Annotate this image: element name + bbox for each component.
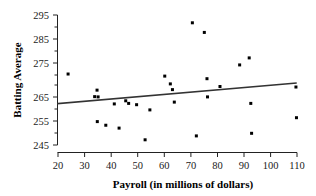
data-point (93, 95, 96, 98)
x-tick-label-110: 110 (289, 160, 304, 171)
y-tick-label-245: 245 (33, 140, 49, 151)
data-point (169, 82, 172, 85)
data-point (148, 108, 151, 111)
data-point (113, 102, 116, 105)
x-tick-label-100: 100 (263, 160, 279, 171)
x-tick-label-20: 20 (53, 160, 64, 171)
data-point (294, 86, 297, 89)
x-tick-label-80: 80 (212, 160, 223, 171)
data-point (250, 132, 253, 135)
x-tick-label-60: 60 (159, 160, 170, 171)
x-tick-label-70: 70 (186, 160, 197, 171)
data-point (173, 101, 176, 104)
data-point (206, 95, 209, 98)
x-tick-label-90: 90 (239, 160, 250, 171)
y-axis-title: Batting Average (11, 42, 23, 117)
scatter-plot-figure: 295 285 275 265 255 245 20 30 40 50 60 7… (0, 0, 316, 196)
data-point (96, 89, 99, 92)
x-tick-label-30: 30 (79, 160, 90, 171)
data-point (295, 116, 298, 119)
data-point (218, 85, 221, 88)
x-axis-title: Payroll (in millions of dollars) (113, 178, 254, 191)
data-point (205, 77, 208, 80)
y-tick-label-285: 285 (33, 34, 49, 45)
data-points-group (67, 21, 298, 141)
data-point (195, 134, 198, 137)
data-point (191, 21, 194, 24)
y-tick-label-275: 275 (33, 58, 49, 69)
data-point (163, 75, 166, 78)
x-tick-label-40: 40 (106, 160, 117, 171)
data-point (124, 99, 127, 102)
data-point (238, 63, 241, 66)
data-point (171, 88, 174, 91)
data-point (118, 127, 121, 130)
y-tick-label-295: 295 (33, 10, 49, 21)
y-tick-label-265: 265 (33, 92, 49, 103)
data-point (203, 31, 206, 34)
data-point (67, 73, 70, 76)
trend-line (58, 83, 296, 104)
data-point (144, 138, 147, 141)
plot-canvas: 295 285 275 265 255 245 20 30 40 50 60 7… (0, 0, 316, 196)
data-point (97, 95, 100, 98)
data-point (249, 102, 252, 105)
data-point (127, 102, 130, 105)
data-point (248, 56, 251, 59)
data-point (96, 120, 99, 123)
y-tick-label-255: 255 (33, 116, 49, 127)
data-point (104, 124, 107, 127)
y-axis-ticks (53, 15, 58, 145)
x-axis-ticks (58, 153, 297, 158)
data-point (135, 103, 138, 106)
x-tick-label-50: 50 (132, 160, 143, 171)
